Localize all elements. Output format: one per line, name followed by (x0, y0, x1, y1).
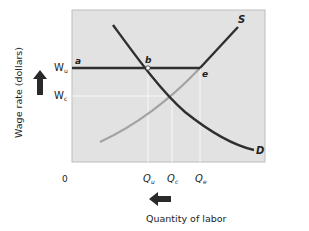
ytick-wu: Wu (54, 62, 68, 74)
label-a: a (75, 56, 81, 66)
arrow-left-icon (149, 192, 171, 206)
origin-label: 0 (62, 174, 68, 184)
label-d: D (256, 145, 264, 156)
xtick-qu: Qu (143, 173, 155, 185)
chart: a b e S D Wu Wc 0 Qu Qc Qe Quantity of l… (0, 0, 309, 231)
ytick-wc: Wc (54, 90, 67, 102)
label-e: e (202, 69, 208, 79)
xtick-qe: Qe (195, 173, 207, 185)
x-axis-title: Quantity of labor (146, 213, 227, 224)
label-b: b (145, 55, 152, 65)
label-s: S (238, 14, 245, 25)
plot-area (72, 10, 265, 162)
point-b (146, 66, 150, 70)
xtick-qc: Qc (167, 173, 179, 185)
arrow-up-icon (33, 70, 47, 95)
y-axis-title: Wage rate (dollars) (13, 47, 24, 138)
